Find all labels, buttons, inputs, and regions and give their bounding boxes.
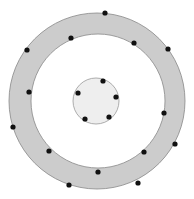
point-dot (66, 182, 71, 187)
point-dot (46, 148, 51, 153)
point-dot (82, 116, 87, 121)
point-dot (26, 89, 31, 94)
point-dot (165, 46, 170, 51)
point-dot (131, 40, 136, 45)
point-dot (106, 114, 111, 119)
point-dot (95, 169, 100, 174)
concentric-rings-diagram (0, 0, 194, 199)
point-dot (172, 141, 177, 146)
inner-disk (73, 78, 119, 124)
point-dot (68, 35, 73, 40)
point-dot (10, 124, 15, 129)
point-dot (102, 10, 107, 15)
point-dot (141, 149, 146, 154)
point-dot (113, 94, 118, 99)
point-dot (135, 180, 140, 185)
point-dot (161, 110, 166, 115)
point-dot (75, 90, 80, 95)
point-dot (100, 78, 105, 83)
point-dot (24, 47, 29, 52)
